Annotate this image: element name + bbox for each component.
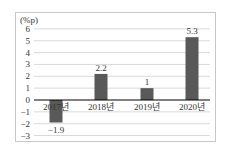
bar-chart: (%p) 6543210−1−2−3 2017년2018년2019년2020년 … <box>0 0 229 150</box>
y-tick-label: 2 <box>26 71 31 81</box>
bars <box>50 37 199 122</box>
x-tick-label: 2020년 <box>179 102 205 112</box>
value-labels: −1.92.215.3 <box>48 26 198 134</box>
bar <box>186 37 199 100</box>
y-tick-label: 0 <box>26 95 31 105</box>
value-label: −1.9 <box>48 125 65 135</box>
x-tick-label: 2018년 <box>88 102 114 112</box>
y-tick-label: 1 <box>26 83 31 93</box>
y-tick-label: 4 <box>26 48 31 58</box>
y-tick-label: −3 <box>20 131 30 141</box>
y-tick-label: 3 <box>26 59 31 69</box>
value-label: 2.2 <box>95 63 106 73</box>
x-axis-labels: 2017년2018년2019년2020년 <box>43 102 205 112</box>
y-axis-ticks: 6543210−1−2−3 <box>20 24 30 141</box>
x-tick-label: 2017년 <box>43 102 69 112</box>
y-tick-label: −1 <box>20 107 30 117</box>
value-label: 5.3 <box>186 26 198 36</box>
bar <box>141 88 154 100</box>
y-tick-label: 5 <box>26 36 31 46</box>
y-tick-label: 6 <box>26 24 31 34</box>
x-tick-label: 2019년 <box>134 102 160 112</box>
bar <box>95 74 108 100</box>
y-tick-label: −2 <box>20 119 30 129</box>
value-label: 1 <box>145 77 150 87</box>
